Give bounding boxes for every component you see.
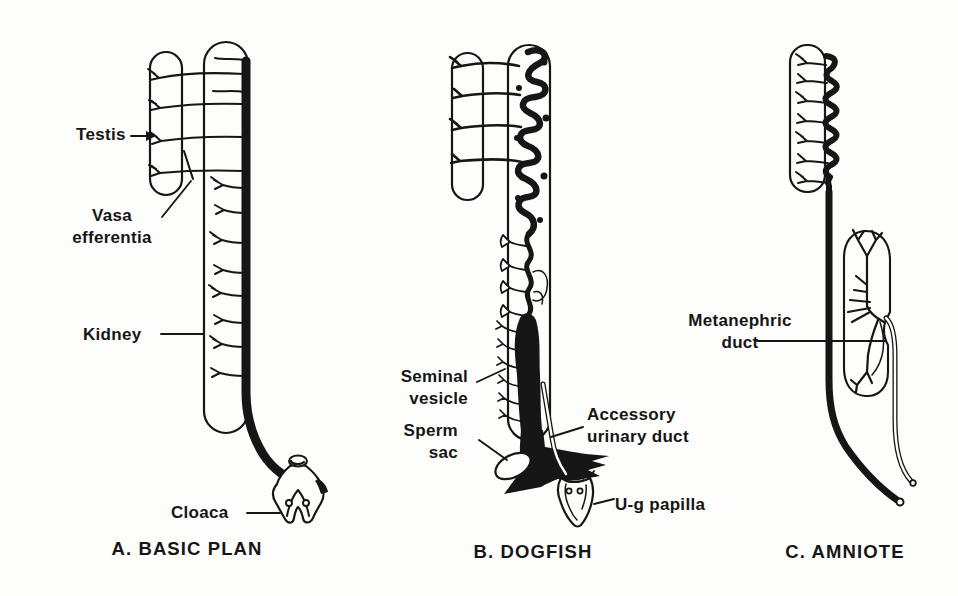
figure-canvas: Testis Vasa efferentia Kidney Cloaca A. … [0, 0, 958, 596]
ureter-lumen [886, 318, 911, 481]
vasa-efferentia-label: Vasa efferentia [70, 205, 154, 250]
panel-amniote-drawing [757, 45, 916, 506]
archinephric-duct [246, 61, 282, 474]
wavy-duct [527, 234, 532, 314]
panel-dogfish-drawing [450, 45, 614, 527]
anatomy-diagram [0, 0, 958, 596]
cloaca-drawing [273, 456, 328, 523]
sperm-sac-label: Sperm sac [396, 420, 458, 465]
cloaca-label: Cloaca [171, 502, 229, 524]
caption-amniote: C. AMNIOTE [775, 541, 915, 563]
caption-basic-plan: A. BASIC PLAN [107, 538, 267, 560]
metanephric-duct-label: Metanephric duct [680, 310, 800, 355]
testis-label: Testis [76, 124, 126, 146]
seminal-leader [477, 369, 505, 382]
panel-basic-plan-drawing [131, 42, 328, 523]
deferent-duct-tip [897, 499, 904, 506]
caption-dogfish: B. DOGFISH [463, 541, 603, 563]
sperm-leader [479, 440, 507, 460]
epididymis-coil [826, 56, 837, 192]
ug-papilla-label: U-g papilla [615, 494, 705, 516]
accessory-leader [551, 427, 583, 437]
kidney-label: Kidney [83, 324, 141, 346]
seminal-vesicle-label: Seminal vesicle [388, 366, 468, 411]
ureter-tip [910, 480, 916, 486]
ug-leader [594, 499, 614, 504]
accessory-urinary-duct-label: Accessory urinary duct [587, 404, 703, 449]
amniote-testis-outline [790, 45, 825, 192]
